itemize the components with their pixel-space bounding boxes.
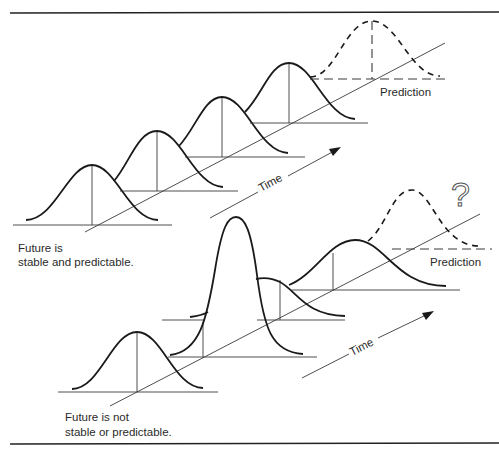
top-distribution-1 xyxy=(13,165,172,225)
top-panel: Prediction Time Future is stable and pre… xyxy=(13,21,450,268)
bottom-rule xyxy=(10,443,499,444)
top-time-arrow: Time xyxy=(210,147,341,218)
bottom-distribution-2 xyxy=(162,217,317,357)
top-distribution-3 xyxy=(179,97,305,157)
bottom-time-arrow: Time xyxy=(302,311,434,378)
top-prediction-label: Prediction xyxy=(380,86,431,98)
top-time-label: Time xyxy=(256,171,284,193)
bottom-distribution-3 xyxy=(256,278,345,320)
bottom-panel: ? Prediction Time Future is not stable o… xyxy=(58,175,492,438)
bottom-caption-line2: stable or predictable. xyxy=(65,426,172,438)
arrowhead-icon xyxy=(422,311,434,320)
question-mark-icon: ? xyxy=(451,175,470,213)
prediction-stability-diagram: Prediction Time Future is stable and pre… xyxy=(0,0,499,452)
top-rule xyxy=(10,12,499,13)
top-prediction-distribution xyxy=(310,21,450,79)
top-time-axis xyxy=(85,43,445,232)
bottom-time-label: Time xyxy=(347,336,375,358)
bottom-prediction-label: Prediction xyxy=(430,256,481,268)
top-caption-line1: Future is xyxy=(18,242,63,254)
bottom-time-axis xyxy=(110,214,480,406)
arrowhead-icon xyxy=(329,147,341,156)
top-caption-line2: stable and predictable. xyxy=(18,256,134,268)
bottom-caption-line1: Future is not xyxy=(65,411,130,423)
